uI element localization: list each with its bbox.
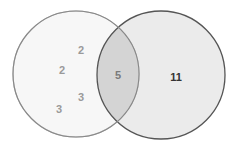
left-set-value: 2	[59, 64, 65, 76]
venn-svg: 2233115	[0, 0, 236, 144]
left-set-value: 2	[78, 44, 84, 56]
venn-diagram: 2233115	[0, 0, 236, 144]
left-set-value: 3	[78, 91, 84, 103]
intersection-value: 5	[115, 69, 121, 81]
left-set-value: 3	[56, 103, 62, 115]
right-set-value: 11	[170, 71, 182, 83]
